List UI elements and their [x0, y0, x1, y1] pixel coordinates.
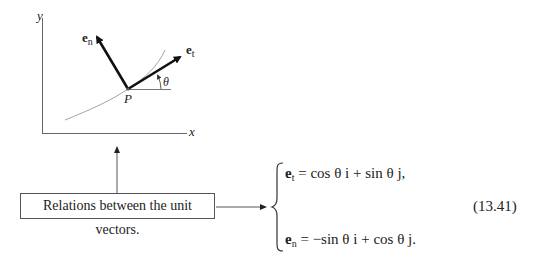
tangent-vector-subscript: t	[192, 48, 195, 59]
eq1-lhs: e	[285, 165, 292, 181]
eq2-rhs: = −sin θ i + cos θ j.	[300, 231, 416, 247]
equation-number: (13.41)	[473, 198, 517, 215]
equation-normal: en = −sin θ i + cos θ j.	[285, 231, 416, 249]
normal-vector-label: en	[82, 30, 93, 47]
path-curve	[65, 50, 165, 120]
tangent-vector-label: et	[186, 42, 195, 59]
annotation-box: Relations between the unit vectors.	[20, 193, 215, 219]
normal-vector-arrow	[97, 37, 128, 89]
point-label: P	[124, 91, 132, 107]
normal-vector-subscript: n	[88, 36, 93, 47]
eq2-lhs-sub: n	[292, 238, 297, 249]
eq1-lhs-sub: t	[292, 172, 295, 183]
x-axis-label: x	[189, 124, 195, 140]
tangent-vector-arrow	[128, 57, 180, 89]
angle-label: θ	[163, 75, 169, 90]
theta-arc-icon	[158, 76, 161, 89]
left-brace	[272, 163, 283, 251]
y-axis-label: y	[37, 8, 43, 24]
eq2-lhs: e	[285, 231, 292, 247]
equation-tangent: et = cos θ i + sin θ j,	[285, 165, 405, 183]
eq1-rhs: = cos θ i + sin θ j,	[298, 165, 405, 181]
